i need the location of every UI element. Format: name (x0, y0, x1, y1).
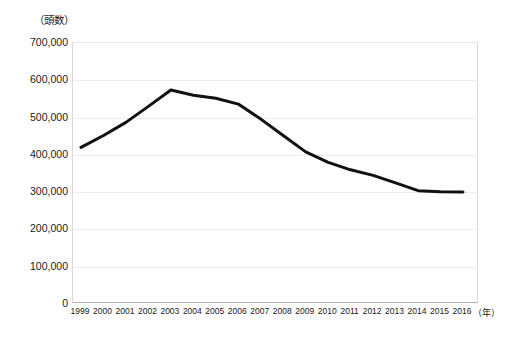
y-axis-tick-label: 100,000 (2, 260, 68, 272)
x-axis-unit-label: （年） (473, 306, 500, 319)
x-axis-tick-label: 2014 (408, 306, 427, 316)
x-axis-tick-label: 2002 (138, 306, 157, 316)
x-axis-tick-label: 2000 (93, 306, 112, 316)
y-axis-tick-label: 400,000 (2, 148, 68, 160)
y-axis-tick-label: 200,000 (2, 222, 68, 234)
x-axis-tick-label: 2006 (228, 306, 247, 316)
x-axis-tick-label: 2001 (115, 306, 134, 316)
y-axis-unit-label: （頭数） (34, 12, 74, 27)
x-axis-tick-label: 2015 (430, 306, 449, 316)
line-chart: （頭数） 700,000600,000500,000400,000300,000… (0, 0, 526, 338)
x-axis-tick-label: 2004 (183, 306, 202, 316)
x-axis-tick-label: 2009 (295, 306, 314, 316)
series-line-headcount (73, 43, 479, 304)
y-axis-tick-labels: 700,000600,000500,000400,000300,000200,0… (0, 42, 68, 303)
x-axis-tick-label: 2013 (385, 306, 404, 316)
x-axis-tick-label: 1999 (71, 306, 90, 316)
x-axis-tick-label: 2016 (453, 306, 472, 316)
y-axis-tick-label: 500,000 (2, 111, 68, 123)
plot-area (72, 42, 478, 303)
x-axis-tick-labels: 1999200020012002200320042005200620072008… (0, 306, 526, 324)
y-axis-tick-label: 300,000 (2, 185, 68, 197)
x-axis-tick-label: 2010 (318, 306, 337, 316)
y-axis-tick-label: 600,000 (2, 73, 68, 85)
x-axis-tick-label: 2011 (341, 306, 359, 316)
x-axis-tick-label: 2008 (273, 306, 292, 316)
y-axis-tick-label: 700,000 (2, 36, 68, 48)
series-polyline (81, 90, 463, 192)
x-axis-tick-label: 2003 (160, 306, 179, 316)
x-axis-tick-label: 2005 (205, 306, 224, 316)
x-axis-tick-label: 2007 (250, 306, 269, 316)
x-axis-tick-label: 2012 (363, 306, 382, 316)
